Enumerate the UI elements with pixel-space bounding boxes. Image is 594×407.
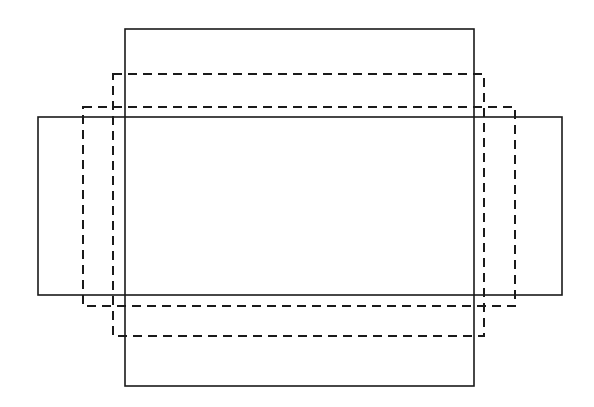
- wide-dashed-rect: [83, 107, 515, 306]
- tall-solid-rect: [125, 29, 474, 386]
- overlapping-rectangles-diagram: [0, 0, 594, 407]
- tall-dashed-rect: [113, 74, 484, 336]
